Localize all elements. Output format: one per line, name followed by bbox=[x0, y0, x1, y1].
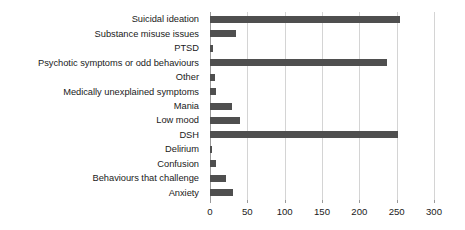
gridline bbox=[434, 12, 435, 200]
category-label: Low mood bbox=[0, 115, 199, 125]
gridline bbox=[247, 12, 248, 200]
category-label: PTSD bbox=[0, 43, 199, 53]
category-label: DSH bbox=[0, 130, 199, 140]
gridline bbox=[322, 12, 323, 200]
gridline bbox=[397, 12, 398, 200]
category-label-column: Suicidal ideationSubstance misuse issues… bbox=[0, 12, 205, 200]
category-label: Delirium bbox=[0, 144, 199, 154]
bar-chart: Suicidal ideationSubstance misuse issues… bbox=[0, 0, 465, 230]
bar bbox=[210, 131, 398, 138]
bar bbox=[210, 160, 216, 167]
category-label: Mania bbox=[0, 101, 199, 111]
bar bbox=[210, 74, 215, 81]
category-label: Suicidal ideation bbox=[0, 14, 199, 24]
bar bbox=[210, 175, 226, 182]
bar bbox=[210, 45, 213, 52]
category-label: Other bbox=[0, 72, 199, 82]
x-axis-tick-label: 300 bbox=[414, 206, 454, 218]
x-axis-tick-label: 0 bbox=[190, 206, 230, 218]
x-axis-tick-label: 100 bbox=[265, 206, 305, 218]
bar bbox=[210, 88, 216, 95]
bar bbox=[210, 30, 236, 37]
plot-area bbox=[210, 12, 434, 200]
x-axis-tick-labels: 050100150200250300 bbox=[0, 202, 465, 226]
x-axis-tick-label: 200 bbox=[339, 206, 379, 218]
bar bbox=[210, 59, 387, 66]
bar bbox=[210, 189, 233, 196]
category-label: Psychotic symptoms or odd behaviours bbox=[0, 58, 199, 68]
category-label: Anxiety bbox=[0, 188, 199, 198]
gridline bbox=[285, 12, 286, 200]
bar bbox=[210, 103, 232, 110]
gridline bbox=[359, 12, 360, 200]
x-axis-tick-label: 250 bbox=[377, 206, 417, 218]
x-axis-tick-label: 50 bbox=[227, 206, 267, 218]
category-label: Confusion bbox=[0, 159, 199, 169]
category-label: Behaviours that challenge bbox=[0, 173, 199, 183]
category-label: Substance misuse issues bbox=[0, 29, 199, 39]
bar bbox=[210, 117, 240, 124]
bar bbox=[210, 146, 212, 153]
category-label: Medically unexplained symptoms bbox=[0, 87, 199, 97]
x-axis-tick-label: 150 bbox=[302, 206, 342, 218]
bar bbox=[210, 16, 400, 23]
